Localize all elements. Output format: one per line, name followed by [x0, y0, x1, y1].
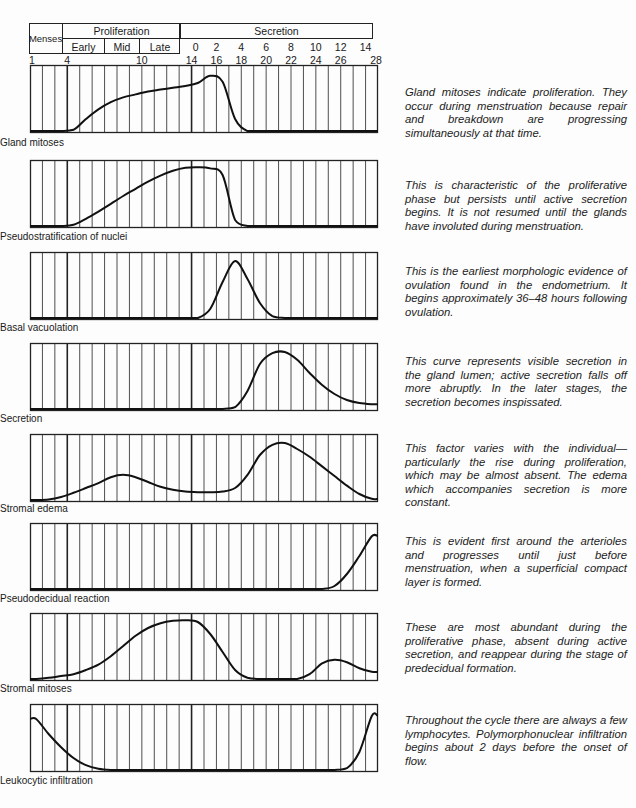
- chart-panel: [30, 65, 378, 133]
- chart-panel: [30, 160, 378, 228]
- chart-panel: [30, 252, 378, 320]
- secretion-header-label: Secretion: [180, 23, 373, 39]
- panel-description: Gland mitoses indicate proliferation. Th…: [405, 86, 627, 140]
- panel-description: This is evident first around the arterio…: [405, 535, 627, 589]
- panel-description: These are most abundant during the proli…: [405, 621, 627, 675]
- secretion-day-label: 0: [186, 41, 206, 53]
- panel-label: Gland mitoses: [0, 137, 64, 148]
- panel-plot: [30, 523, 378, 591]
- chart-panel: [30, 343, 378, 411]
- mid-header: Mid: [105, 39, 140, 54]
- chart-panel: [30, 434, 378, 502]
- secretion-day-label: 6: [256, 41, 276, 53]
- late-header: Late: [140, 39, 180, 54]
- panel-plot: [30, 704, 378, 772]
- panel-label: Leukocytic infiltration: [0, 775, 93, 786]
- chart-panel: [30, 704, 378, 772]
- panel-label: Basal vacuolation: [0, 322, 78, 333]
- panel-plot: [30, 252, 378, 320]
- panel-description: This curve represents visible secretion …: [405, 355, 627, 409]
- panel-plot: [30, 434, 378, 502]
- panel-plot: [30, 65, 378, 133]
- panel-label: Pseudodecidual reaction: [0, 593, 110, 604]
- panel-label: Pseudostratification of nuclei: [0, 231, 127, 242]
- secretion-day-label: 8: [281, 41, 301, 53]
- secretion-day-label: 4: [231, 41, 251, 53]
- secretion-day-label: 2: [206, 41, 226, 53]
- panel-plot: [30, 160, 378, 228]
- chart-panel: [30, 613, 378, 681]
- panel-description: Throughout the cycle there are always a …: [405, 714, 627, 768]
- secretion-day-label: 12: [331, 41, 351, 53]
- early-header: Early: [63, 39, 105, 54]
- secretion-day-label: 14: [356, 41, 376, 53]
- panel-description: This is characteristic of the proliferat…: [405, 179, 627, 233]
- panel-description: This factor varies with the individual—p…: [405, 442, 627, 510]
- chart-panel: [30, 523, 378, 591]
- secretion-day-label: 10: [306, 41, 326, 53]
- panel-label: Stromal edema: [0, 503, 68, 514]
- proliferation-header: Proliferation: [63, 24, 180, 39]
- panel-plot: [30, 613, 378, 681]
- menses-header: Menses: [29, 23, 63, 54]
- panel-plot: [30, 343, 378, 411]
- panel-label: Stromal mitoses: [0, 683, 72, 694]
- panel-label: Secretion: [0, 413, 42, 424]
- panel-description: This is the earliest morphologic evidenc…: [405, 265, 627, 319]
